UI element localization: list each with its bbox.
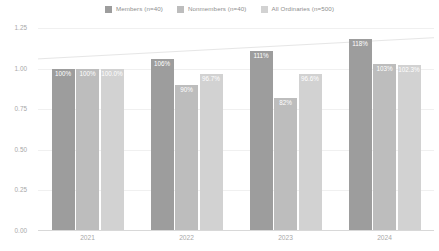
legend-swatch-icon (105, 6, 112, 13)
bar-wrapper: 100% (52, 69, 75, 231)
bar-group-bars: 100%100%100.0% (38, 28, 137, 231)
plot-area: 1.251.000.750.500.250.00 100%100%100.0%2… (38, 28, 434, 231)
x-axis-tick-label: 2023 (236, 235, 335, 242)
bar-groups: 100%100%100.0%2021106%90%96.7%2022111%82… (38, 28, 434, 231)
x-axis-tick-label: 2021 (38, 235, 137, 242)
y-axis-tick-label: 0.75 (0, 106, 27, 112)
bar-value-label: 118% (349, 41, 372, 47)
bar-value-label: 102.3% (398, 67, 421, 73)
legend-label-nonmembers: Nonmembers (n=40) (188, 6, 247, 12)
bar[interactable]: 90% (175, 85, 198, 231)
bar-value-label: 82% (274, 100, 297, 106)
legend-label-all-ordinaries: All Ordinaries (n=500) (272, 6, 335, 12)
bar[interactable]: 100.0% (101, 69, 124, 231)
bar-chart: Members (n=40) Nonmembers (n=40) All Ord… (0, 0, 439, 251)
bar[interactable]: 106% (151, 59, 174, 231)
bar-group: 111%82%96.6%2023 (236, 28, 335, 231)
bar-wrapper: 100% (76, 69, 99, 231)
bar-value-label: 96.7% (200, 76, 223, 82)
bar[interactable]: 96.6% (299, 74, 322, 231)
bar-wrapper: 96.7% (200, 74, 223, 231)
x-axis-tick-label: 2024 (335, 235, 434, 242)
legend-swatch-icon (261, 6, 268, 13)
bar-group-bars: 118%103%102.3% (335, 28, 434, 231)
y-axis-tick-label: 0.00 (0, 228, 27, 234)
chart-legend: Members (n=40) Nonmembers (n=40) All Ord… (0, 6, 439, 13)
bar-value-label: 100% (76, 71, 99, 77)
legend-label-members: Members (n=40) (116, 6, 163, 12)
bar[interactable]: 96.7% (200, 74, 223, 231)
bar[interactable]: 111% (250, 51, 273, 231)
bar-value-label: 100.0% (101, 71, 124, 77)
bar[interactable]: 118% (349, 39, 372, 231)
bar-group-bars: 111%82%96.6% (236, 28, 335, 231)
bar-wrapper: 103% (373, 64, 396, 231)
bar-value-label: 96.6% (299, 76, 322, 82)
bar[interactable]: 100% (52, 69, 75, 231)
bar[interactable]: 100% (76, 69, 99, 231)
bar-group: 100%100%100.0%2021 (38, 28, 137, 231)
y-axis-tick-label: 0.25 (0, 187, 27, 193)
bar-wrapper: 118% (349, 39, 372, 231)
bar-value-label: 111% (250, 53, 273, 59)
bar-wrapper: 96.6% (299, 74, 322, 231)
bar-group: 106%90%96.7%2022 (137, 28, 236, 231)
bar-value-label: 90% (175, 87, 198, 93)
bar[interactable]: 103% (373, 64, 396, 231)
bar-wrapper: 102.3% (398, 65, 421, 231)
legend-item-members[interactable]: Members (n=40) (105, 6, 163, 13)
bar-wrapper: 111% (250, 51, 273, 231)
legend-item-all-ordinaries[interactable]: All Ordinaries (n=500) (261, 6, 335, 13)
bar[interactable]: 102.3% (398, 65, 421, 231)
x-axis-tick-label: 2022 (137, 235, 236, 242)
bar-wrapper: 100.0% (101, 69, 124, 231)
y-axis-tick-label: 1.00 (0, 65, 27, 71)
bar[interactable]: 82% (274, 98, 297, 231)
bar-wrapper: 82% (274, 98, 297, 231)
bar-wrapper: 106% (151, 59, 174, 231)
bar-group: 118%103%102.3%2024 (335, 28, 434, 231)
bar-group-bars: 106%90%96.7% (137, 28, 236, 231)
bar-value-label: 106% (151, 61, 174, 67)
y-axis-tick-label: 1.25 (0, 25, 27, 31)
y-axis-tick-label: 0.50 (0, 147, 27, 153)
bar-wrapper: 90% (175, 85, 198, 231)
legend-swatch-icon (177, 6, 184, 13)
bar-value-label: 100% (52, 71, 75, 77)
x-axis-line (38, 230, 434, 231)
legend-item-nonmembers[interactable]: Nonmembers (n=40) (177, 6, 247, 13)
bar-value-label: 103% (373, 66, 396, 72)
